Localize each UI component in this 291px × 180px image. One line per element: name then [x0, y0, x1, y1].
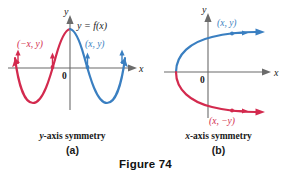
- caption-b-symmetry: x-axis symmetry: [146, 131, 291, 141]
- figure-caption: Figure 74: [0, 158, 291, 170]
- graph-a: x y 0 y = f(x) (−x, y) (x, y): [0, 0, 145, 131]
- point-label-a-right: (x, y): [85, 39, 105, 50]
- x-axis-a: [8, 64, 137, 71]
- point-label-a-left: (−x, y): [17, 39, 43, 50]
- point-label-b-upper: (x, y): [217, 18, 237, 29]
- caption-a-letter: (a): [0, 144, 145, 156]
- axis-label-x-b: x: [273, 67, 279, 78]
- y-axis-b: [204, 13, 211, 118]
- curve-b-upper-blue: [176, 29, 265, 72]
- x-axis-b: [164, 68, 271, 75]
- axis-label-y-a: y: [63, 6, 69, 17]
- caption-a-symmetry: y-axis symmetry: [0, 131, 145, 141]
- caption-a-symmetry-text: -axis symmetry: [44, 131, 106, 141]
- graph-b: x y 0 (x, y) (x, −y): [146, 0, 291, 131]
- curve-b-lower-red: [176, 72, 265, 115]
- figure-74: x y 0 y = f(x) (−x, y) (x, y): [0, 0, 291, 180]
- origin-label-a: 0: [62, 71, 67, 81]
- function-label-a: y = f(x): [76, 20, 108, 32]
- caption-b-letter: (b): [146, 144, 291, 156]
- origin-label-b: 0: [200, 75, 205, 85]
- axis-label-y-b: y: [201, 4, 207, 15]
- caption-b-symmetry-text: -axis symmetry: [190, 131, 252, 141]
- axis-label-x-a: x: [138, 63, 144, 74]
- point-label-b-lower: (x, −y): [209, 116, 235, 127]
